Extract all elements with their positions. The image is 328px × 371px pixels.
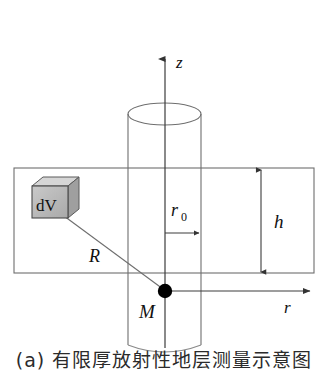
cylinder-radius-label-main: r [171,200,179,220]
r-axis-label: r [284,298,291,317]
distance-R-label: R [88,246,100,266]
figure-container: z r M dV R r 0 h (a) 有限厚放射性地层测量示意图 [0,0,328,371]
origin-point-marker [158,284,172,298]
diagram-canvas: z r M dV R r 0 h [0,0,328,371]
volume-element-label-text: dV [36,196,58,215]
layer-thickness-label: h [274,211,284,232]
z-axis-label: z [175,53,183,72]
origin-point-label: M [138,301,156,322]
cylinder-radius-label-sub: 0 [181,210,187,224]
volume-element-label: dV [36,196,58,215]
figure-caption: (a) 有限厚放射性地层测量示意图 [0,350,328,371]
